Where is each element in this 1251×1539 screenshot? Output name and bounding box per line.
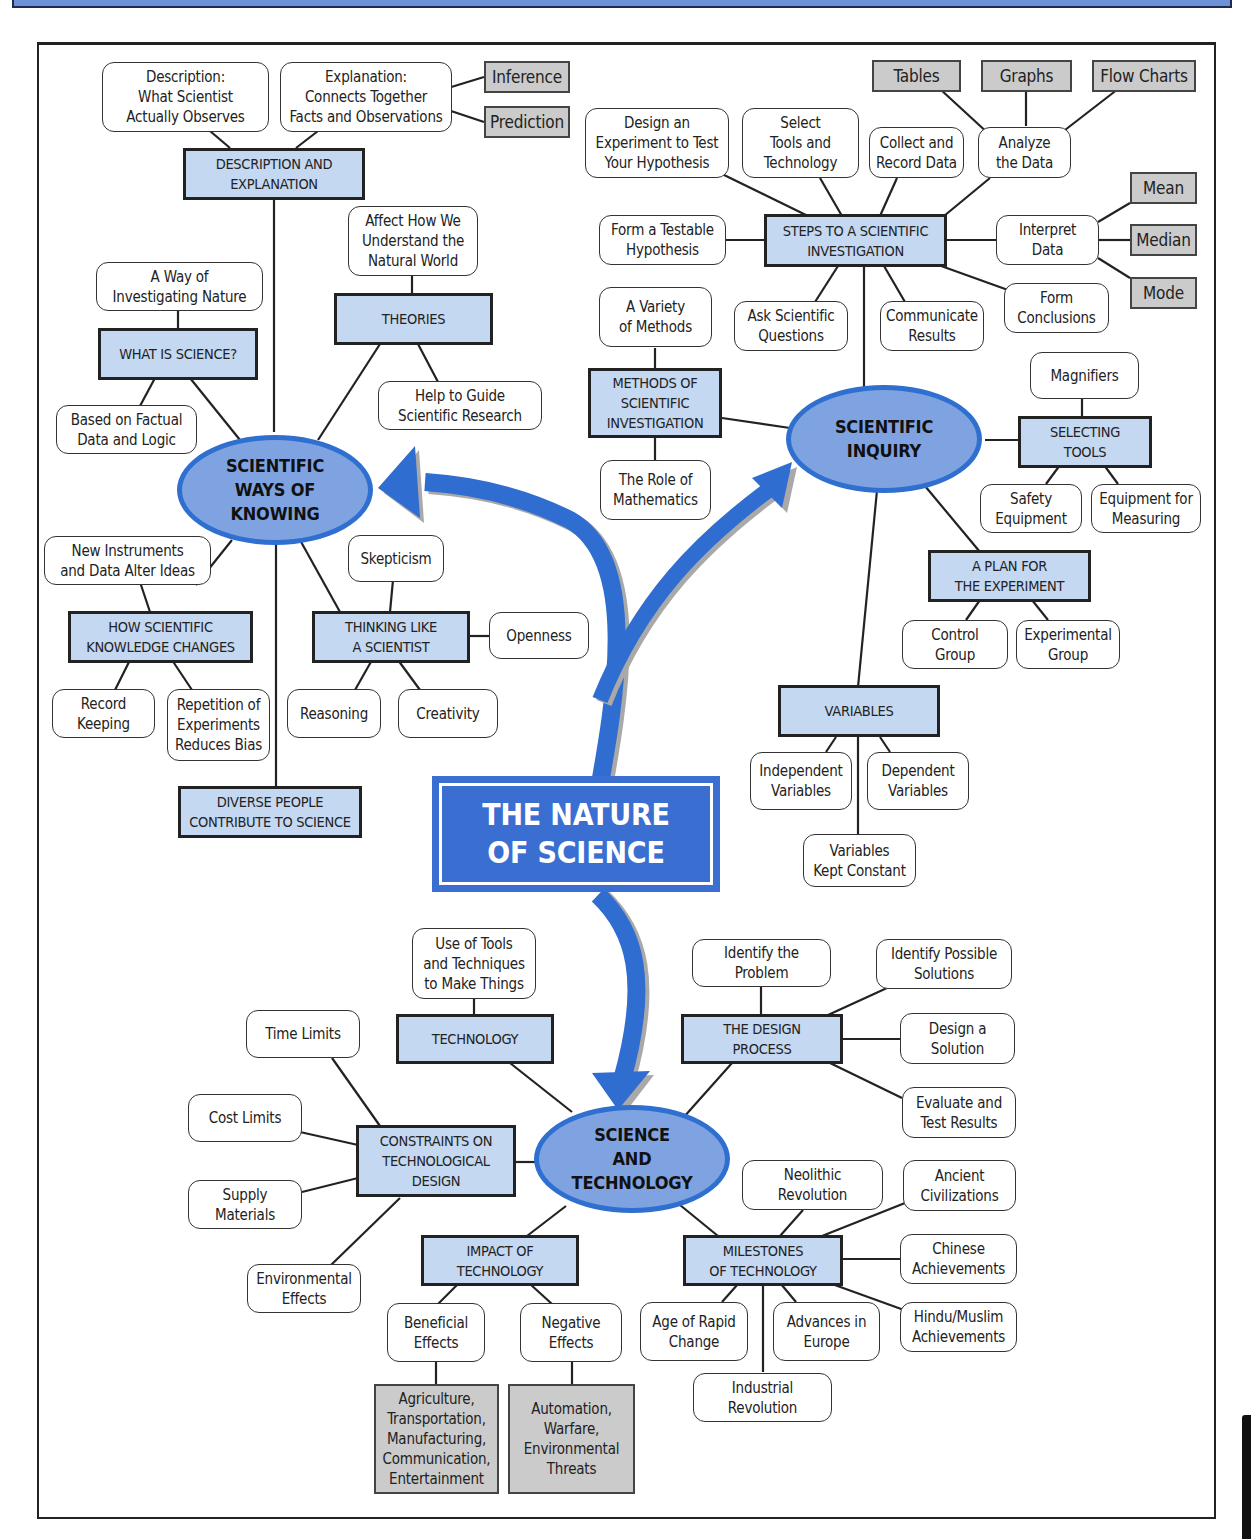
- beneficial-effects-node: Beneficial Effects: [387, 1303, 485, 1362]
- methods-investigation-category: METHODS OF SCIENTIFIC INVESTIGATION: [588, 368, 722, 438]
- guide-research-node: Help to Guide Scientific Research: [378, 381, 542, 430]
- independent-variables-node: Independent Variables: [750, 752, 852, 810]
- hindu-muslim-node: Hindu/Muslim Achievements: [900, 1302, 1017, 1352]
- repetition-node: Repetition of Experiments Reduces Bias: [167, 689, 270, 761]
- age-of-rapid-change-node: Age of Rapid Change: [640, 1302, 748, 1361]
- time-limits-node: Time Limits: [246, 1010, 360, 1058]
- design-solution-node: Design a Solution: [900, 1013, 1015, 1064]
- graphs-node: Graphs: [981, 60, 1072, 92]
- role-of-math-node: The Role of Mathematics: [600, 460, 711, 520]
- safety-equipment-node: Safety Equipment: [980, 484, 1082, 533]
- cost-limits-node: Cost Limits: [188, 1094, 302, 1142]
- science-and-technology-hub: SCIENCE AND TECHNOLOGY: [534, 1105, 730, 1213]
- explanation-node: Explanation: Connects Together Facts and…: [280, 62, 452, 132]
- plan-experiment-category: A PLAN FOR THE EXPERIMENT: [928, 550, 1091, 602]
- creativity-node: Creativity: [398, 689, 498, 738]
- milestones-category: MILESTONES OF TECHNOLOGY: [683, 1235, 843, 1286]
- analyze-data-node: Analyze the Data: [978, 127, 1071, 178]
- mode-node: Mode: [1130, 277, 1197, 309]
- identify-problem-node: Identify the Problem: [692, 939, 831, 987]
- description-node: Description: What Scientist Actually Obs…: [102, 62, 269, 132]
- ancient-civilizations-node: Ancient Civilizations: [903, 1160, 1016, 1211]
- inference-node: Inference: [484, 61, 570, 93]
- skepticism-node: Skepticism: [348, 535, 444, 582]
- technology-category: TECHNOLOGY: [396, 1014, 554, 1064]
- mean-node: Mean: [1130, 172, 1197, 204]
- ask-questions-node: Ask Scientific Questions: [734, 301, 848, 351]
- tools-techniques-node: Use of Tools and Techniques to Make Thin…: [412, 928, 536, 999]
- advances-europe-node: Advances in Europe: [773, 1302, 880, 1361]
- steps-investigation-category: STEPS TO A SCIENTIFIC INVESTIGATION: [764, 214, 947, 267]
- magnifiers-node: Magnifiers: [1030, 352, 1139, 399]
- affect-understanding-node: Affect How We Understand the Natural Wor…: [348, 206, 478, 276]
- median-node: Median: [1130, 224, 1197, 256]
- control-group-node: Control Group: [902, 620, 1008, 669]
- page-title: THE NATURE OF SCIENCE: [432, 776, 720, 892]
- environmental-effects-node: Environmental Effects: [247, 1264, 361, 1313]
- collect-data-node: Collect and Record Data: [869, 127, 964, 178]
- description-and-explanation-category: DESCRIPTION AND EXPLANATION: [183, 148, 365, 200]
- chinese-achievements-node: Chinese Achievements: [900, 1234, 1017, 1284]
- interpret-data-node: Interpret Data: [996, 215, 1099, 265]
- select-tools-node: Select Tools and Technology: [742, 108, 859, 178]
- negative-examples-node: Automation, Warfare, Environmental Threa…: [508, 1384, 635, 1494]
- prediction-node: Prediction: [484, 106, 570, 138]
- theories-category: THEORIES: [334, 293, 493, 345]
- form-conclusions-node: Form Conclusions: [1004, 283, 1109, 333]
- beneficial-examples-node: Agriculture, Transportation, Manufacturi…: [374, 1384, 499, 1494]
- tables-node: Tables: [872, 60, 961, 92]
- measuring-equipment-node: Equipment for Measuring: [1091, 484, 1201, 533]
- thinking-like-scientist-category: THINKING LIKE A SCIENTIST: [312, 611, 470, 663]
- evaluate-results-node: Evaluate and Test Results: [902, 1087, 1016, 1138]
- communicate-results-node: Communicate Results: [880, 301, 984, 351]
- industrial-revolution-node: Industrial Revolution: [693, 1373, 832, 1422]
- variables-kept-constant-node: Variables Kept Constant: [803, 834, 916, 887]
- new-instruments-node: New Instruments and Data Alter Ideas: [44, 536, 211, 585]
- design-process-category: THE DESIGN PROCESS: [681, 1014, 843, 1064]
- variables-category: VARIABLES: [778, 685, 940, 737]
- flow-charts-node: Flow Charts: [1092, 60, 1196, 92]
- variety-methods-node: A Variety of Methods: [599, 287, 712, 347]
- way-of-investigating-node: A Way of Investigating Nature: [96, 262, 263, 311]
- scientific-inquiry-hub: SCIENTIFIC INQUIRY: [786, 385, 982, 493]
- knowledge-changes-category: HOW SCIENTIFIC KNOWLEDGE CHANGES: [68, 611, 253, 663]
- supply-materials-node: Supply Materials: [188, 1180, 302, 1229]
- neolithic-node: Neolithic Revolution: [742, 1160, 883, 1210]
- negative-effects-node: Negative Effects: [520, 1303, 622, 1362]
- design-experiment-node: Design an Experiment to Test Your Hypoth…: [585, 108, 729, 178]
- factual-data-node: Based on Factual Data and Logic: [56, 405, 197, 454]
- scientific-ways-of-knowing-hub: SCIENTIFIC WAYS OF KNOWING: [177, 435, 373, 545]
- constraints-category: CONSTRAINTS ON TECHNOLOGICAL DESIGN: [356, 1125, 516, 1197]
- identify-solutions-node: Identify Possible Solutions: [876, 939, 1012, 989]
- what-is-science-category: WHAT IS SCIENCE?: [98, 328, 258, 380]
- experimental-group-node: Experimental Group: [1016, 620, 1120, 669]
- reasoning-node: Reasoning: [287, 689, 381, 738]
- record-keeping-node: Record Keeping: [52, 689, 155, 738]
- testable-hypothesis-node: Form a Testable Hypothesis: [599, 215, 726, 265]
- dependent-variables-node: Dependent Variables: [867, 752, 969, 810]
- openness-node: Openness: [489, 612, 589, 659]
- impact-technology-category: IMPACT OF TECHNOLOGY: [421, 1235, 579, 1286]
- diverse-people-category: DIVERSE PEOPLE CONTRIBUTE TO SCIENCE: [178, 786, 362, 838]
- selecting-tools-category: SELECTING TOOLS: [1018, 416, 1152, 468]
